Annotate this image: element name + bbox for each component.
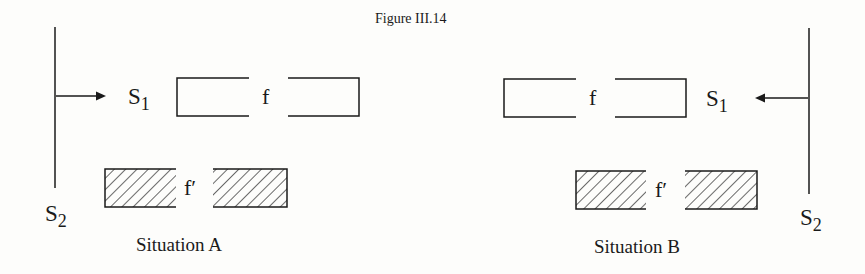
s2-label-b: S2 bbox=[800, 205, 822, 235]
frame-f-label-b: f bbox=[589, 85, 597, 110]
s2-label-a: S2 bbox=[45, 201, 67, 231]
s1-label-b: S1 bbox=[706, 86, 728, 116]
arrow-right-icon bbox=[56, 92, 106, 101]
arrow-left-icon bbox=[755, 94, 808, 103]
frame-fprime-label-a: f′ bbox=[184, 175, 196, 200]
figure-title: Figure III.14 bbox=[375, 11, 447, 26]
frame-f-label-a: f bbox=[262, 84, 270, 109]
caption-situation-a: Situation A bbox=[136, 234, 222, 255]
figure-diagram: Figure III.14 S1 f f′ S2 bbox=[0, 0, 865, 274]
frame-fprime-label-b: f′ bbox=[655, 177, 667, 202]
s1-label-a: S1 bbox=[128, 84, 150, 114]
situation-b: f S1 f′ S2 Situation B bbox=[504, 28, 822, 257]
situation-a: S1 f f′ S2 Situation A bbox=[45, 27, 359, 255]
caption-situation-b: Situation B bbox=[594, 236, 680, 257]
